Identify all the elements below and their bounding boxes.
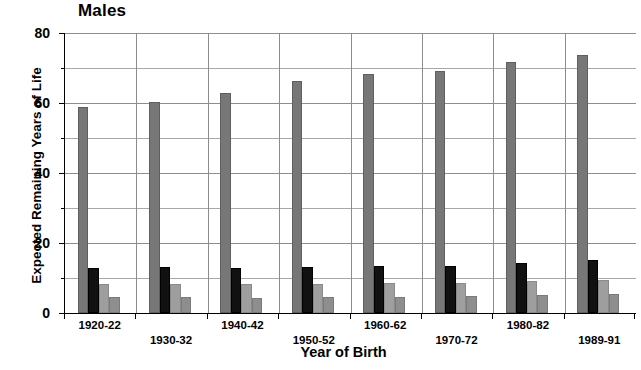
plot-area bbox=[64, 33, 635, 313]
bar bbox=[537, 295, 548, 313]
bar bbox=[577, 55, 588, 313]
bar bbox=[527, 281, 538, 313]
bar bbox=[252, 298, 263, 313]
group-separator bbox=[208, 33, 209, 313]
y-axis-tick-label: 0 bbox=[42, 305, 50, 321]
y-axis-tick-label: 60 bbox=[34, 95, 50, 111]
y-axis-tick-major bbox=[59, 173, 65, 174]
bar-group bbox=[363, 33, 405, 313]
bar bbox=[456, 283, 467, 313]
bar bbox=[231, 268, 242, 313]
bar-group bbox=[577, 33, 619, 313]
bar bbox=[395, 297, 406, 313]
bar bbox=[374, 266, 385, 313]
chart-title: Males bbox=[78, 1, 126, 21]
group-separator bbox=[351, 33, 352, 313]
group-separator bbox=[136, 33, 137, 313]
y-axis-tick-major bbox=[59, 33, 65, 34]
bar bbox=[588, 260, 599, 313]
bar bbox=[598, 280, 609, 313]
bar bbox=[506, 62, 517, 313]
y-axis-tick-minor bbox=[61, 68, 65, 69]
y-axis-tick-minor bbox=[61, 278, 65, 279]
bar bbox=[181, 297, 192, 313]
x-axis-title: Year of Birth bbox=[0, 344, 641, 360]
y-axis-tick-label: 40 bbox=[34, 165, 50, 181]
bar-group bbox=[220, 33, 262, 313]
bar-group bbox=[78, 33, 120, 313]
bar bbox=[384, 283, 395, 313]
bar-group bbox=[292, 33, 334, 313]
y-axis-tick-labels: 020406080 bbox=[0, 33, 58, 313]
bar-group bbox=[435, 33, 477, 313]
y-axis-tick-label: 20 bbox=[34, 235, 50, 251]
bar bbox=[160, 267, 171, 313]
bar bbox=[302, 267, 313, 313]
x-axis-category-label: 1980-82 bbox=[507, 319, 549, 331]
y-axis-tick-label: 80 bbox=[34, 25, 50, 41]
bar bbox=[109, 297, 120, 313]
x-axis-category-label: 1940-42 bbox=[221, 319, 263, 331]
y-axis-tick-major bbox=[59, 103, 65, 104]
bar bbox=[435, 71, 446, 313]
bar bbox=[609, 294, 620, 313]
bar-group bbox=[149, 33, 191, 313]
group-separator bbox=[565, 33, 566, 313]
bar bbox=[363, 74, 374, 313]
group-separator bbox=[493, 33, 494, 313]
bar bbox=[323, 297, 334, 313]
bar bbox=[149, 102, 160, 313]
x-axis-category-label: 1920-22 bbox=[79, 319, 121, 331]
group-separator bbox=[422, 33, 423, 313]
bar bbox=[313, 284, 324, 313]
bar bbox=[78, 107, 89, 313]
x-axis-category-label: 1960-62 bbox=[364, 319, 406, 331]
y-axis-tick-minor bbox=[61, 208, 65, 209]
bar bbox=[88, 268, 99, 314]
bar bbox=[241, 284, 252, 313]
group-separator bbox=[279, 33, 280, 313]
bar bbox=[516, 263, 527, 313]
bar bbox=[466, 296, 477, 313]
chart-figure: Males Expected Remaining Years of Life 0… bbox=[0, 0, 641, 370]
bar bbox=[220, 93, 231, 314]
x-axis-category-labels: 1920-221930-321940-421950-521960-621970-… bbox=[64, 316, 635, 346]
bar bbox=[170, 284, 181, 313]
bar bbox=[445, 266, 456, 313]
bar bbox=[99, 284, 110, 313]
y-axis-tick-major bbox=[59, 243, 65, 244]
y-axis-tick-minor bbox=[61, 138, 65, 139]
bar-group bbox=[506, 33, 548, 313]
bar bbox=[292, 81, 303, 313]
